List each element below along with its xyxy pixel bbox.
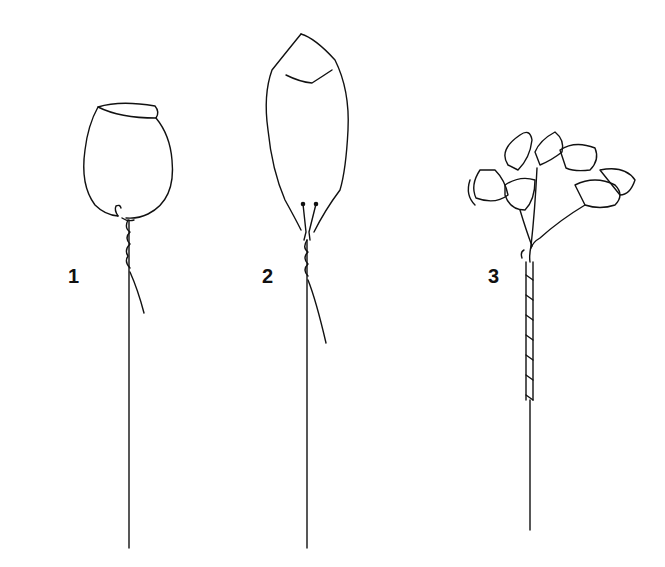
panel-label-1: 1 xyxy=(68,265,79,288)
illustration xyxy=(0,0,665,567)
flower-1-drawing xyxy=(84,103,173,548)
panel-label-2: 2 xyxy=(262,265,273,288)
flower-2-drawing xyxy=(266,34,348,548)
panel-label-3: 3 xyxy=(488,265,499,288)
flower-3-drawing xyxy=(468,132,635,530)
